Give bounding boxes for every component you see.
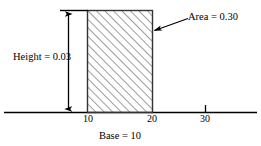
x-tick-label-30: 30: [200, 114, 210, 124]
x-tick-label-10: 10: [83, 114, 93, 124]
histogram-figure: 10 20 30 Height = 0.03 Area = 0.30 Base …: [0, 0, 261, 146]
histogram-bar: [88, 11, 153, 113]
x-tick-label-20: 20: [147, 114, 157, 124]
base-annotation-label: Base = 10: [99, 131, 141, 142]
area-leader-line: [155, 19, 189, 31]
area-annotation-label: Area = 0.30: [188, 12, 238, 23]
height-annotation-label: Height = 0.03: [13, 52, 71, 63]
